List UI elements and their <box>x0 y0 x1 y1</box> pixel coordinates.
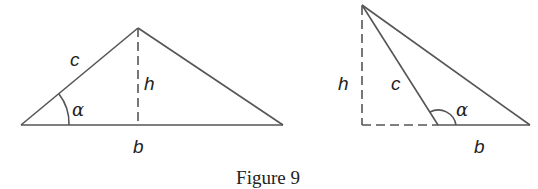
right-side-long <box>362 5 530 125</box>
figure-caption: Figure 9 <box>236 167 300 188</box>
left-label-alpha: α <box>72 99 84 120</box>
right-label-b: b <box>474 136 485 157</box>
left-label-b: b <box>133 136 144 157</box>
left-label-h: h <box>144 73 155 94</box>
right-label-h: h <box>338 73 349 94</box>
right-label-alpha: α <box>456 99 468 120</box>
right-label-c: c <box>391 73 401 94</box>
left-label-c: c <box>70 49 80 70</box>
figure-9-diagram: c h α b h c α b Figure 9 <box>0 0 538 189</box>
right-triangle <box>362 5 530 125</box>
left-angle-arc <box>59 94 69 125</box>
left-side-right <box>138 28 283 125</box>
right-side-c <box>362 5 438 125</box>
